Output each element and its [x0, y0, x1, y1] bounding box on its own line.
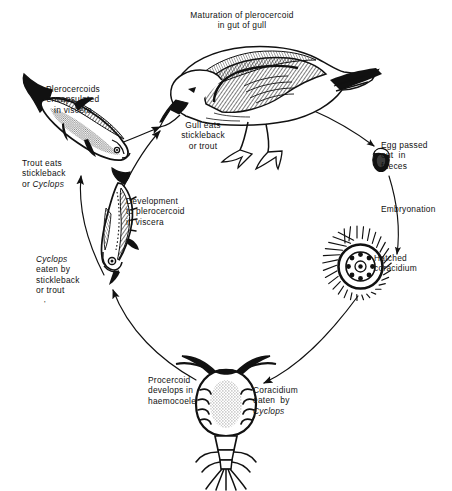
label-trout-eats: Trout eats stickleback or Cyclops — [22, 158, 96, 189]
label-plerocercoids-encapsulated: Plerocercoids encapsulated in viscera — [31, 84, 115, 115]
label-procercoid-line3: haemocoele — [148, 396, 196, 406]
label-gull-eats-line3: or trout — [189, 141, 218, 151]
label-procercoid-develops: Procercoid develops in haemocoele — [148, 375, 228, 406]
arrow-cyclops-to-stickleback — [113, 290, 196, 380]
label-gull-eats-line1: Gull eats — [185, 120, 220, 130]
label-egg-line3: faeces — [381, 161, 407, 171]
label-egg-line1: Egg passed — [381, 140, 428, 150]
label-procercoid-line2: develops in — [148, 385, 193, 395]
label-egg-passed: Egg passed out in faeces — [381, 140, 449, 171]
label-coracidium-eaten-line3: Cyclops — [253, 406, 285, 416]
label-coracidium-eaten-line1: Coracidium — [253, 385, 298, 395]
label-egg-line2: out in — [381, 150, 406, 160]
label-cyclops-eaten-line4: or trout — [36, 285, 65, 295]
arrow-coracidium-to-cyclops — [264, 296, 358, 383]
label-trout-eats-line3: or Cyclops — [22, 179, 64, 189]
label-plerocercoids-line2: encapsulated — [47, 94, 100, 104]
label-coracidium-eaten-line2: eaten by — [253, 395, 290, 405]
label-plerocercoids-line3: in viscera — [54, 105, 92, 115]
label-development-line1: Development — [126, 196, 178, 206]
label-title-line1: Maturation of plerocercoid — [190, 10, 293, 20]
label-cyclops-eaten: Cyclops eaten by stickleback or trout — [36, 254, 116, 296]
life-cycle-illustration — [0, 0, 452, 491]
label-cyclops-eaten-line2: eaten by — [36, 264, 70, 274]
label-trout-eats-line2: stickleback — [22, 168, 66, 178]
stray-ink-mark: ' — [44, 299, 52, 309]
label-trout-eats-line1: Trout eats — [22, 158, 62, 168]
label-coracidium-eaten: Coracidium eaten by Cyclops — [253, 385, 327, 416]
label-trout-eats-line3-plain: or — [22, 179, 33, 189]
label-maturation-title: Maturation of plerocercoid in gut of gul… — [148, 10, 336, 31]
arrow-gull-to-egg — [312, 110, 374, 146]
label-gull-eats: Gull eats stickleback or trout — [166, 120, 240, 151]
label-cyclops-eaten-line1: Cyclops — [36, 254, 68, 264]
label-procercoid-line1: Procercoid — [148, 375, 191, 385]
label-cyclops-eaten-line3: stickleback — [36, 275, 80, 285]
label-hatched-line2: coracidium — [374, 263, 417, 273]
life-cycle-figure: Maturation of plerocercoid in gut of gul… — [0, 0, 452, 491]
label-gull-eats-line2: stickleback — [181, 130, 225, 140]
label-trout-eats-line3-italic: Cyclops — [33, 179, 65, 189]
label-development-line2: to plerocercoid — [126, 206, 185, 216]
label-embryonation: Embryonation — [381, 204, 451, 214]
label-hatched-coracidium: Hatched coracidium — [374, 253, 448, 274]
label-hatched-line1: Hatched — [374, 253, 407, 263]
label-plerocercoids-line1: Plerocercoids — [46, 84, 100, 94]
label-title-line2: in gut of gull — [218, 20, 267, 30]
label-development-plerocercoid: Development to plerocercoid in viscera — [126, 196, 212, 227]
arrow-egg-to-coracidium — [389, 176, 398, 254]
label-development-line3: in viscera — [126, 217, 164, 227]
